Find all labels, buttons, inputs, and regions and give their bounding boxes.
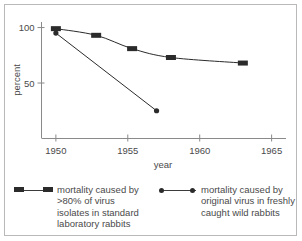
x-tick-label: 1960 bbox=[189, 145, 210, 156]
data-point-marker bbox=[238, 61, 248, 66]
data-point-marker bbox=[53, 30, 58, 35]
data-point-marker bbox=[166, 55, 176, 60]
y-axis-title: percent bbox=[11, 64, 22, 96]
data-point-marker bbox=[154, 108, 159, 113]
legend-key-square-line-icon bbox=[14, 185, 54, 196]
x-tick-label: 1965 bbox=[261, 145, 282, 156]
x-axis-title: year bbox=[154, 159, 172, 170]
legend-key-dot-line-icon bbox=[158, 185, 198, 196]
y-tick-label: 100 bbox=[19, 22, 35, 33]
plot-svg: 50100 1950195519601965 percent year bbox=[0, 0, 302, 175]
y-tick-label: 50 bbox=[24, 78, 35, 89]
legend-label: mortality caused by original virus in fr… bbox=[201, 184, 295, 218]
x-tick-label: 1955 bbox=[117, 145, 138, 156]
data-point-marker bbox=[51, 26, 61, 31]
chart-legend: mortality caused by >80% of virus isolat… bbox=[0, 182, 302, 241]
x-tick-group: 1950195519601965 bbox=[45, 135, 282, 156]
series-line bbox=[56, 29, 243, 63]
legend-entry-mortality-80pct-isolates: mortality caused by >80% of virus isolat… bbox=[14, 184, 152, 230]
chart-figure: 50100 1950195519601965 percent year mort… bbox=[0, 0, 302, 241]
y-tick-group: 50100 bbox=[19, 22, 45, 88]
series-layer bbox=[51, 26, 248, 113]
plot-area: 50100 1950195519601965 percent year bbox=[0, 0, 302, 175]
series-line bbox=[56, 33, 157, 111]
legend-label: mortality caused by >80% of virus isolat… bbox=[57, 184, 139, 230]
data-point-marker bbox=[127, 46, 137, 51]
legend-entry-mortality-original-virus: mortality caused by original virus in fr… bbox=[158, 184, 298, 218]
x-tick-label: 1950 bbox=[45, 145, 66, 156]
data-point-marker bbox=[91, 33, 101, 38]
